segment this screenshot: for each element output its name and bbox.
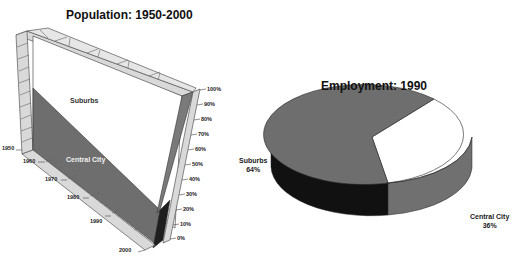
suburbs-pie-name: Suburbs xyxy=(239,156,267,165)
year-label-2000: 2000 xyxy=(119,247,131,253)
central-city-pie-pct: 36% xyxy=(470,221,509,230)
year-label-1990: 1990 xyxy=(90,218,102,224)
year-label-1960: 1960 xyxy=(23,158,35,164)
population-chart-graphic xyxy=(0,0,519,264)
year-label-1980: 1980 xyxy=(67,194,79,200)
year-label-1950: 1950 xyxy=(2,145,14,151)
pct-label-10: 10% xyxy=(180,221,191,227)
employment-chart-title: Employment: 1990 xyxy=(321,79,427,93)
central-city-pie-name: Central City xyxy=(470,212,509,221)
pct-label-40: 40% xyxy=(189,176,200,182)
pct-label-80: 80% xyxy=(201,116,212,122)
pct-label-50: 50% xyxy=(192,161,203,167)
left-pillar xyxy=(16,31,33,154)
pct-label-20: 20% xyxy=(183,206,194,212)
employment-pie xyxy=(264,85,472,216)
central-city-area-label: Central City xyxy=(66,155,105,164)
pct-label-0: 0% xyxy=(177,235,185,241)
central-city-pie-label: Central City 36% xyxy=(470,212,509,230)
suburbs-pie-label: Suburbs 64% xyxy=(239,156,267,174)
pct-label-70: 70% xyxy=(198,131,209,137)
pct-label-30: 30% xyxy=(186,191,197,197)
pct-label-90: 90% xyxy=(204,101,215,107)
suburbs-pie-pct: 64% xyxy=(239,165,267,174)
suburbs-area-label: Suburbs xyxy=(70,96,98,105)
pct-label-60: 60% xyxy=(195,146,206,152)
year-label-1970: 1970 xyxy=(45,176,57,182)
pct-label-100: 100% xyxy=(207,86,221,92)
